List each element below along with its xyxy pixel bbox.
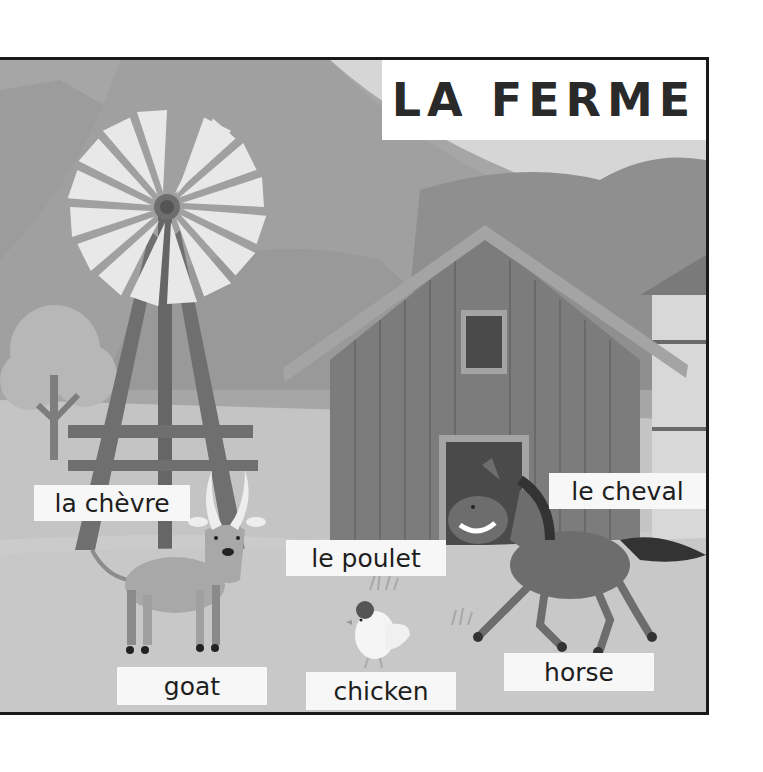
label-chicken-en: chicken: [306, 672, 456, 710]
farm-poster: LA FERME la chèvre goat le poulet chicke…: [0, 57, 709, 715]
farm-scene: [0, 60, 706, 712]
label-horse-en: horse: [504, 653, 654, 691]
label-chicken-fr: le poulet: [286, 540, 446, 576]
label-horse-fr: le cheval: [549, 473, 706, 509]
title-banner: LA FERME: [382, 60, 706, 140]
label-goat-fr: la chèvre: [34, 485, 190, 521]
page-title: LA FERME: [392, 73, 696, 127]
label-goat-en: goat: [117, 667, 267, 705]
